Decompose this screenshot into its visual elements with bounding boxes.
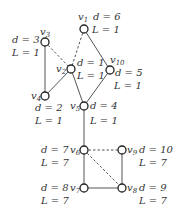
node-v4: [41, 92, 49, 100]
node-name-v8: v8: [127, 182, 138, 195]
node-name-v6: v6: [70, 144, 81, 157]
node-v6: [80, 146, 88, 154]
node-v10: [106, 66, 114, 74]
node-v5: [80, 102, 88, 110]
graph-diagram: v1 d = 6 L = 1 v3 d = 3 L = 1 v2 d = 1 L…: [0, 0, 180, 215]
node-d-v5: d = 4: [90, 100, 118, 111]
node-L-v5: L = 1: [89, 115, 118, 126]
node-L-v7: L = 7: [40, 195, 69, 206]
node-L-v1: L = 1: [91, 24, 120, 35]
node-d-v1: d = 6: [93, 11, 121, 22]
node-L-v8: L = 7: [138, 195, 167, 206]
node-d-v3: d = 3: [12, 34, 40, 45]
node-d-v2: d = 1: [77, 57, 105, 68]
node-L-v4: L = 1: [34, 115, 63, 126]
node-v9: [118, 146, 126, 154]
node-v1: [80, 25, 88, 33]
node-d-v4: d = 2: [35, 102, 63, 113]
node-name-v1: v1: [78, 11, 88, 24]
edge-v6-v8: [84, 150, 122, 188]
node-L-v6: L = 7: [40, 157, 69, 168]
node-d-v8: d = 9: [139, 182, 167, 193]
node-v3: [41, 38, 49, 46]
node-L-v2: L = 1: [76, 70, 105, 81]
node-L-v10: L = 1: [113, 80, 142, 91]
node-v7: [80, 184, 88, 192]
node-v8: [118, 184, 126, 192]
node-name-v7: v7: [70, 182, 81, 195]
node-name-v10: v10: [110, 54, 125, 67]
node-d-v10: d = 5: [115, 67, 143, 78]
node-d-v7: d = 8: [41, 182, 69, 193]
node-d-v9: d = 10: [139, 144, 174, 155]
node-L-v9: L = 7: [138, 157, 167, 168]
node-name-v2: v2: [56, 63, 67, 76]
node-L-v3: L = 1: [11, 47, 40, 58]
node-name-v9: v9: [127, 144, 138, 157]
node-name-v3: v3: [40, 26, 51, 39]
node-d-v6: d = 7: [41, 144, 69, 155]
node-name-v5: v5: [70, 100, 81, 113]
node-v2: [67, 65, 75, 73]
